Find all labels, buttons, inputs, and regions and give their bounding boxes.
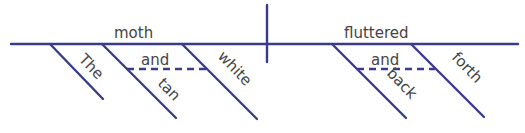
subject-word: moth [114,24,153,42]
modifier-word-the: The [74,50,107,83]
modifier-word-forth: forth [448,48,486,86]
subject-conjunction: and [141,51,169,69]
sentence-diagram: moth fluttered and and The tan white bac… [0,0,525,133]
modifier-word-back: back [383,64,421,102]
diagram-canvas: moth fluttered and and The tan white bac… [0,0,525,133]
predicate-word: fluttered [344,24,409,42]
